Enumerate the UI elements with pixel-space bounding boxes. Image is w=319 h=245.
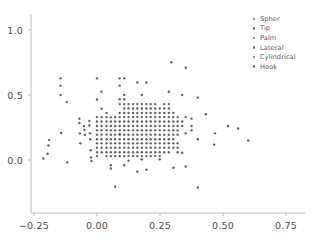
scatter-point [123, 98, 125, 100]
legend-item-label: Spher [260, 15, 280, 23]
scatter-point [100, 107, 102, 109]
scatter-point [114, 125, 116, 127]
scatter-point [213, 143, 215, 145]
scatter-point [159, 155, 161, 157]
scatter-point [163, 129, 165, 131]
scatter-point [132, 146, 134, 148]
scatter-point [89, 132, 91, 134]
scatter-point [149, 112, 151, 114]
scatter-point [159, 158, 161, 160]
scatter-point [136, 171, 138, 173]
scatter-point [123, 77, 125, 79]
scatter-point [100, 138, 102, 140]
scatter-point [96, 146, 98, 148]
scatter-point [132, 120, 134, 122]
scatter-point [114, 133, 116, 135]
scatter-point [154, 107, 156, 109]
scatter-point [78, 122, 80, 124]
scatter-point [141, 129, 143, 131]
legend-item[interactable]: Hook [248, 62, 318, 72]
scatter-point [149, 107, 151, 109]
scatter-point [154, 133, 156, 135]
legend-item-label: Tip [260, 24, 270, 32]
scatter-point [237, 127, 239, 129]
scatter-point [110, 151, 112, 153]
scatter-point [89, 138, 91, 140]
scatter-point [90, 149, 92, 151]
scatter-point [90, 156, 92, 158]
scatter-point [96, 125, 98, 127]
scatter-point [132, 138, 134, 140]
scatter-point [132, 142, 134, 144]
scatter-point [176, 146, 178, 148]
scatter-series [145, 81, 161, 171]
scatter-point [141, 138, 143, 140]
scatter-point [145, 129, 147, 131]
x-tick-label: 0.00 [86, 220, 108, 231]
scatter-point [114, 142, 116, 144]
scatter-point [100, 120, 102, 122]
scatter-point [114, 146, 116, 148]
scatter-point [159, 146, 161, 148]
scatter-series [42, 77, 98, 163]
scatter-point [149, 142, 151, 144]
scatter-point [136, 112, 138, 114]
scatter-point [132, 133, 134, 135]
scatter-point [163, 107, 165, 109]
scatter-point [127, 159, 129, 161]
scatter-point [110, 155, 112, 157]
y-tick-label: 1.0 [0, 25, 23, 36]
scatter-point [168, 146, 170, 148]
x-tick-label: −0.25 [19, 220, 49, 231]
scatter-point [127, 129, 129, 131]
scatter-point [118, 155, 120, 157]
scatter-point [127, 133, 129, 135]
scatter-point [149, 103, 151, 105]
scatter-point [141, 94, 143, 96]
scatter-point [136, 146, 138, 148]
scatter-point [159, 129, 161, 131]
scatter-point [127, 116, 129, 118]
scatter-point [168, 151, 170, 153]
x-tick-label: 0.25 [149, 220, 171, 231]
scatter-point [172, 142, 174, 144]
scatter-point [176, 120, 178, 122]
scatter-point [141, 142, 143, 144]
scatter-point [149, 129, 151, 131]
scatter-point [42, 157, 44, 159]
scatter-point [190, 125, 192, 127]
scatter-point [96, 151, 98, 153]
legend-item[interactable]: Tip [248, 24, 318, 34]
scatter-point [136, 103, 138, 105]
scatter-point [100, 133, 102, 135]
scatter-point [168, 91, 170, 93]
legend-marker-icon [248, 37, 260, 40]
legend-item[interactable]: Spher [248, 14, 318, 24]
scatter-point [59, 77, 61, 79]
legend-item-label: Hook [260, 63, 277, 71]
scatter-point [136, 138, 138, 140]
scatter-point [118, 103, 120, 105]
scatter-point [159, 151, 161, 153]
scatter-point [159, 116, 161, 118]
legend-item[interactable]: Lateral [248, 43, 318, 53]
scatter-point [105, 112, 107, 114]
scatter-point [170, 61, 172, 63]
scatter-point [132, 129, 134, 131]
scatter-point [105, 116, 107, 118]
scatter-point [114, 138, 116, 140]
scatter-point [123, 151, 125, 153]
scatter-point [90, 160, 92, 162]
scatter-series [163, 61, 249, 189]
legend-item[interactable]: Cylindrical [248, 52, 318, 62]
legend-item[interactable]: Palm [248, 33, 318, 43]
scatter-point [149, 125, 151, 127]
scatter-point [123, 142, 125, 144]
scatter-point [154, 125, 156, 127]
scatter-point [127, 155, 129, 157]
scatter-plot-figure: 0.00.51.0 −0.250.000.250.500.75 Spher Ti… [0, 0, 319, 245]
scatter-series [132, 81, 143, 173]
scatter-point [132, 125, 134, 127]
scatter-point [96, 77, 98, 79]
scatter-point [110, 167, 112, 169]
